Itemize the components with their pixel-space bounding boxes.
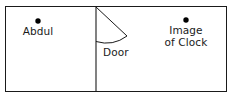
clock-label-line-1: Image xyxy=(148,25,224,37)
abdul-position-dot xyxy=(35,18,40,23)
abdul-label: Abdul xyxy=(0,26,76,38)
clock-position-dot xyxy=(183,17,188,22)
door-label: Door xyxy=(103,47,139,59)
floor-plan-diagram: Abdul Door Image of Clock xyxy=(0,0,232,100)
abdul-label-text: Abdul xyxy=(0,26,76,38)
door-label-text: Door xyxy=(103,47,139,59)
clock-label: Image of Clock xyxy=(148,25,224,48)
clock-label-line-2: of Clock xyxy=(148,37,224,49)
